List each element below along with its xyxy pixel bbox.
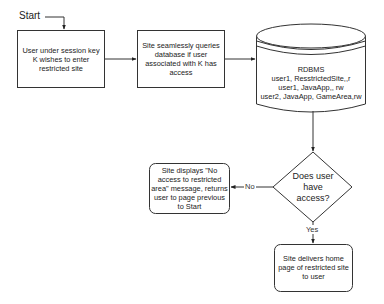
user-request-text: User under session key K wishes to enter… [19, 32, 103, 86]
database-row: user1, JavaApp,, rw [278, 83, 343, 92]
start-connector [45, 17, 64, 29]
no-edge-label: No [244, 182, 256, 191]
decision-text: Does user have access? [286, 170, 340, 204]
yes-edge-label: Yes [305, 225, 319, 234]
database-row: user1, ResstrictedSite,,r [272, 74, 351, 83]
database-title: RDBMS [298, 65, 325, 74]
granted-text: Site delivers home page of restricted si… [277, 246, 350, 289]
database-contents: RDBMS user1, ResstrictedSite,,r user1, J… [257, 60, 365, 105]
query-db-text: Site seamlessly queries database if user… [141, 32, 221, 86]
database-row: user2, JavaApp, GameArea,rw [260, 92, 361, 101]
denied-text: Site displays "No access to restricted a… [151, 165, 228, 212]
start-label: Start [19, 10, 40, 21]
